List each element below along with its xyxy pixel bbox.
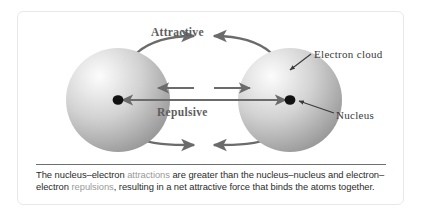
atom-interaction-diagram bbox=[18, 12, 402, 160]
caption-divider bbox=[36, 164, 386, 165]
caption-part-1: The nucleus–electron bbox=[36, 169, 127, 180]
right-nucleus bbox=[285, 95, 296, 105]
label-attractive: Attractive bbox=[151, 26, 204, 38]
label-nucleus: Nucleus bbox=[336, 109, 374, 121]
figure-frame: Attractive Repulsive Electron cloud Nucl… bbox=[17, 11, 404, 205]
caption-highlight-repulsions: repulsions bbox=[72, 181, 114, 192]
caption-highlight-attractions: attractions bbox=[127, 169, 170, 180]
label-repulsive: Repulsive bbox=[157, 106, 208, 118]
label-electron-cloud: Electron cloud bbox=[314, 48, 383, 60]
figure-caption: The nucleus–electron attractions are gre… bbox=[36, 169, 388, 192]
caption-part-3: , resulting in a net attractive force th… bbox=[114, 181, 375, 192]
left-nucleus bbox=[113, 95, 124, 105]
